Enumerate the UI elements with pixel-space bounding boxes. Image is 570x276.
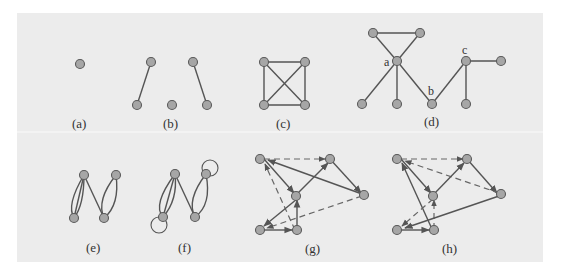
vertex <box>326 155 335 164</box>
vertex <box>360 191 369 200</box>
caption-d: (d) <box>424 114 439 129</box>
vertex <box>159 213 168 222</box>
vertex <box>393 226 402 235</box>
vertex <box>202 170 211 179</box>
vertex <box>416 29 425 38</box>
graph-g: (g) <box>256 155 369 257</box>
graph-c: (c) <box>260 58 310 132</box>
vertex <box>100 214 109 223</box>
vertex <box>191 213 200 222</box>
vertex <box>76 60 85 69</box>
vertex <box>462 100 471 109</box>
vertex <box>80 171 89 180</box>
vertex <box>430 226 439 235</box>
vertex <box>112 171 121 180</box>
vertex <box>171 170 180 179</box>
vertex <box>393 155 402 164</box>
vertex <box>256 226 265 235</box>
vertex <box>147 58 156 67</box>
caption-f: (f) <box>178 240 191 255</box>
vertex-label-a: a <box>384 55 390 69</box>
vertex <box>463 155 472 164</box>
caption-g: (g) <box>305 241 320 256</box>
caption-b: (b) <box>163 116 178 131</box>
vertex-label-b: b <box>428 84 434 98</box>
vertex <box>133 101 142 110</box>
graph-f: (f) <box>151 160 218 255</box>
vertex <box>203 101 212 110</box>
graph-figure: (a) (b) (c) <box>0 0 570 276</box>
graph-h: (h) <box>393 155 506 257</box>
vertex <box>429 192 438 201</box>
graph-d: a b c (d) <box>358 29 506 130</box>
graph-b: (b) <box>133 58 212 132</box>
vertex <box>293 226 302 235</box>
vertex <box>301 58 310 67</box>
vertex <box>393 100 402 109</box>
vertex <box>260 58 269 67</box>
vertex <box>497 190 506 199</box>
vertex <box>70 214 79 223</box>
vertex <box>497 57 506 66</box>
vertex-label-c: c <box>462 43 467 57</box>
vertex <box>256 155 265 164</box>
vertex <box>301 101 310 110</box>
vertex <box>168 101 177 110</box>
caption-e: (e) <box>86 240 100 255</box>
vertex <box>369 29 378 38</box>
caption-c: (c) <box>276 116 290 131</box>
vertex-a <box>393 57 402 66</box>
graph-a: (a) <box>72 60 86 132</box>
graph-e: (e) <box>70 171 121 256</box>
caption-h: (h) <box>442 241 457 256</box>
vertex-b <box>428 100 437 109</box>
vertex <box>189 58 198 67</box>
caption-a: (a) <box>72 116 86 131</box>
vertex <box>292 192 301 201</box>
vertex <box>358 100 367 109</box>
vertex <box>260 101 269 110</box>
vertex-c <box>462 57 471 66</box>
